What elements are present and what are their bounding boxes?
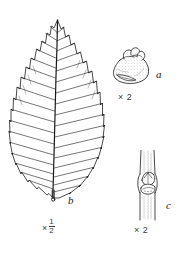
twig-figure: c × 2: [130, 150, 168, 222]
figure-scale-b-denominator: 2: [49, 227, 55, 235]
leaf-figure: b ×12: [0, 6, 108, 211]
twig-bud: [142, 172, 155, 185]
figure-scale-b: ×12: [42, 218, 55, 234]
twig-drawing: [130, 150, 168, 222]
leaf-midrib: [53, 20, 58, 198]
figure-scale-b-prefix: ×: [42, 223, 48, 233]
figure-label-c: c: [166, 200, 171, 211]
figure-label-b: b: [68, 195, 74, 206]
twig-lower-fill: [141, 192, 155, 220]
figure-scale-b-fraction: 12: [49, 218, 55, 234]
figure-scale-a: × 2: [118, 93, 132, 102]
figure-label-a: a: [156, 69, 162, 80]
figure-scale-c: × 2: [134, 226, 148, 235]
twig-node-right: [155, 174, 157, 193]
twig-upper-fill: [141, 150, 154, 174]
leaf-veins-right: [54, 28, 105, 193]
twig-node-left: [138, 174, 140, 193]
leaf-veinlets: [19, 60, 95, 105]
leaf-margin-left: [9, 20, 58, 198]
illustration-plate: b ×12: [0, 0, 182, 259]
leaf-drawing: [0, 6, 108, 211]
bud-drawing: [104, 42, 160, 90]
bud-figure: a × 2: [104, 42, 160, 90]
